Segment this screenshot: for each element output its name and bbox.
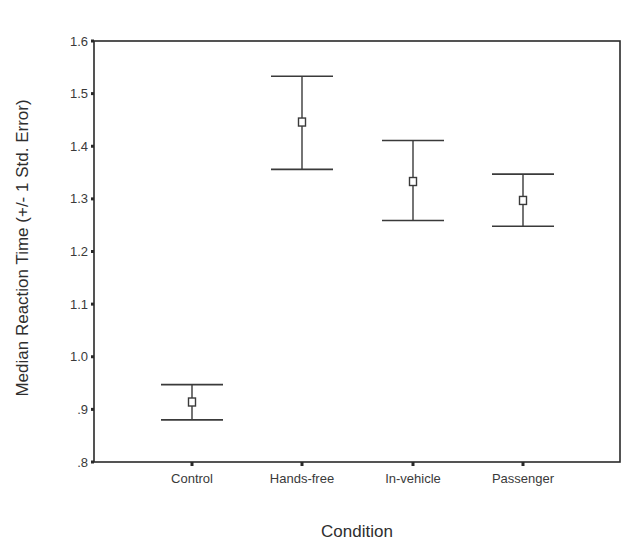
y-tick-label: .8 <box>77 455 88 470</box>
x-tick-mark <box>412 462 415 466</box>
y-tick-label: 1.2 <box>70 244 88 259</box>
error-bar-hands-free <box>271 76 333 169</box>
y-tick-label: 1.3 <box>70 191 88 206</box>
y-tick-label: .9 <box>77 402 88 417</box>
x-tick-label: Control <box>171 471 213 486</box>
y-tick-label: 1.1 <box>70 297 88 312</box>
y-tick-label: 1.4 <box>70 139 88 154</box>
y-tick-mark <box>91 461 94 464</box>
y-tick-mark <box>91 40 94 43</box>
error-bar-chart: .8.91.01.11.21.31.41.51.6 ControlHands-f… <box>0 0 644 551</box>
y-tick-mark <box>91 408 94 411</box>
mean-marker-square <box>520 196 527 204</box>
y-tick-mark <box>91 145 94 148</box>
y-tick-label: 1.5 <box>70 86 88 101</box>
x-axis-ticks: ControlHands-freeIn-vehiclePassenger <box>171 462 555 486</box>
plot-frame <box>94 41 620 462</box>
y-axis-title: Median Reaction Time (+/- 1 Std. Error) <box>13 99 32 396</box>
error-bar-passenger <box>492 174 554 226</box>
plot-border <box>94 41 620 462</box>
y-tick-mark <box>91 303 94 306</box>
x-axis-title: Condition <box>321 522 393 541</box>
x-tick-label: Passenger <box>492 471 555 486</box>
y-tick-mark <box>91 355 94 358</box>
mean-marker-square <box>410 178 417 186</box>
y-tick-mark <box>91 92 94 95</box>
x-tick-mark <box>301 462 304 466</box>
y-tick-label: 1.0 <box>70 349 88 364</box>
x-tick-mark <box>191 462 194 466</box>
error-bar-in-vehicle <box>382 140 444 220</box>
x-tick-label: Hands-free <box>270 471 334 486</box>
x-tick-label: In-vehicle <box>385 471 441 486</box>
mean-marker-square <box>299 118 306 126</box>
mean-marker-square <box>189 398 196 406</box>
y-axis-ticks: .8.91.01.11.21.31.41.51.6 <box>70 34 94 470</box>
y-tick-mark <box>91 197 94 200</box>
y-tick-mark <box>91 250 94 253</box>
x-tick-mark <box>522 462 525 466</box>
y-tick-label: 1.6 <box>70 34 88 49</box>
error-bar-control <box>161 385 223 420</box>
error-bars <box>161 76 554 420</box>
